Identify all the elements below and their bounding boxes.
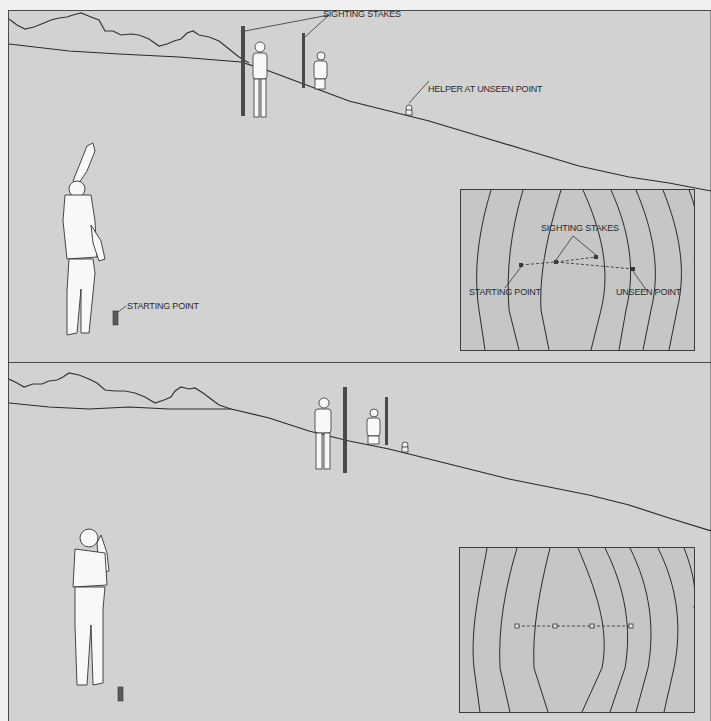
person-at-stake-1: [253, 42, 267, 117]
sighting-stake-2: [302, 33, 305, 88]
sighting-stake-1: [343, 387, 347, 473]
person-at-starting-point: [63, 143, 105, 335]
sighting-line-bent: [521, 257, 633, 269]
treeline: [9, 13, 249, 63]
treeline: [9, 373, 231, 409]
sighting-stakes-label: SIGHTING STAKES: [323, 9, 401, 19]
contour-map-top: SIGHTING STAKES STARTING POINT UNSEEN PO…: [460, 189, 695, 351]
contour-map-bottom: [459, 547, 695, 713]
inset-sighting-stakes-label: SIGHTING STAKES: [541, 223, 619, 233]
ground-line: [9, 44, 711, 191]
person-at-stake-2: [367, 409, 380, 444]
inset-starting-point-label: STARTING POINT: [469, 287, 541, 297]
helper-at-unseen-point: [406, 105, 412, 115]
inset-unseen-point-label: UNSEEN POINT: [616, 287, 681, 297]
ground-line: [9, 403, 711, 531]
bottom-panel: [8, 362, 711, 721]
sighting-stake-1: [241, 26, 245, 116]
contour-lines-bottom: [460, 548, 694, 712]
sighting-stake-2: [385, 397, 388, 445]
helper-at-unseen-point: [402, 442, 408, 452]
top-panel: SIGHTING STAKES HELPER AT UNSEEN POINT S…: [8, 10, 711, 362]
person-at-stake-2: [314, 52, 327, 89]
contour-lines-top: [461, 190, 694, 350]
person-at-stake-1: [315, 398, 331, 469]
starting-point-marker: [113, 311, 118, 325]
starting-point-label: STARTING POINT: [127, 301, 199, 311]
helper-unseen-label: HELPER AT UNSEEN POINT: [428, 84, 542, 94]
person-at-starting-point: [73, 529, 109, 685]
starting-point-marker: [118, 687, 123, 701]
